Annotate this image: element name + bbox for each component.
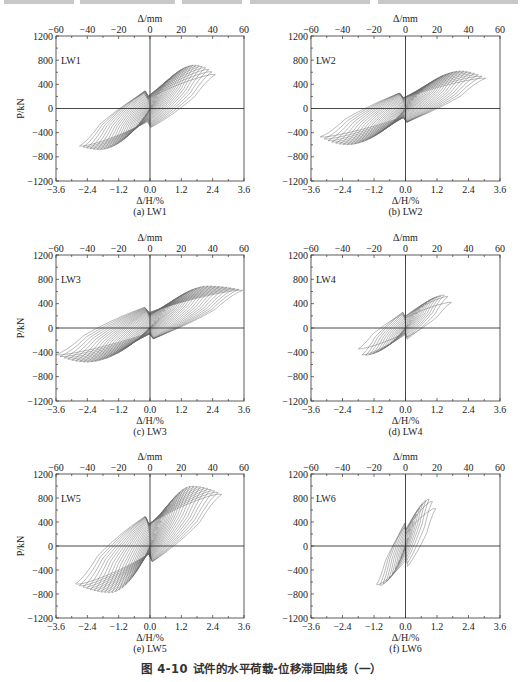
y-tick-label: 1200	[288, 469, 308, 480]
y-tick-label: −1200	[282, 176, 308, 187]
x2-tick-label: 20	[432, 24, 442, 35]
x-tick-label: 3.6	[238, 184, 251, 195]
x2-tick-label: 0	[148, 243, 153, 254]
x2-tick-label: −20	[111, 462, 127, 473]
specimen-label: LW3	[61, 274, 81, 285]
chart-lw1: −3.6−2.4−1.20.01.22.43.6−60−40−200204060…	[16, 6, 258, 223]
x-axis-title: Δ/H/%	[392, 632, 420, 643]
x2-tick-label: 40	[208, 462, 218, 473]
x2-tick-label: −40	[80, 24, 96, 35]
x2-tick-label: 20	[432, 462, 442, 473]
x-tick-label: 1.2	[175, 184, 188, 195]
x2-tick-label: 0	[403, 462, 408, 473]
x2-tick-label: 60	[495, 462, 505, 473]
y-tick-label: 0	[303, 323, 308, 334]
y-tick-label: −1200	[282, 396, 308, 407]
y-tick-label: −400	[32, 565, 53, 576]
y-tick-label: −800	[287, 371, 308, 382]
hysteresis-curves	[358, 295, 451, 355]
y-tick-label: −1200	[27, 613, 53, 624]
hysteresis-curves	[76, 486, 222, 593]
x2-tick-label: 20	[176, 243, 186, 254]
x2-tick-label: −20	[366, 243, 382, 254]
figure-caption: 图 4-10 试件的水平荷载-位移滞回曲线（一）	[0, 660, 523, 676]
x2-tick-label: 40	[464, 243, 474, 254]
x-tick-label: 3.6	[238, 404, 251, 415]
y-axis-title: P/kN	[16, 536, 26, 557]
y-tick-label: 1200	[288, 250, 308, 261]
x2-tick-label: 60	[239, 24, 249, 35]
panel-label: (b) LW2	[389, 206, 423, 218]
x-tick-label: −2.4	[78, 621, 96, 632]
hysteresis-curves	[320, 71, 485, 145]
x-tick-label: −1.2	[365, 184, 383, 195]
y-tick-label: −800	[287, 589, 308, 600]
hysteresis-curves	[377, 499, 436, 585]
x2-tick-label: −20	[366, 462, 382, 473]
y-tick-label: −1200	[27, 176, 53, 187]
x2-tick-label: 0	[403, 243, 408, 254]
specimen-label: LW1	[61, 55, 81, 66]
plot-frame	[311, 255, 500, 401]
x-tick-label: −2.4	[78, 404, 96, 415]
y-tick-label: 800	[38, 55, 53, 66]
chart-lw6: −3.6−2.4−1.20.01.22.43.6−60−40−200204060…	[271, 444, 514, 660]
y-tick-label: 800	[293, 274, 308, 285]
x-tick-label: 2.4	[462, 404, 475, 415]
y-tick-label: 1200	[33, 250, 53, 261]
x2-axis-title: Δ/mm	[393, 13, 418, 24]
x-axis-title: Δ/H/%	[136, 632, 164, 643]
x2-tick-label: 0	[148, 462, 153, 473]
x-tick-label: 0.0	[399, 184, 412, 195]
x2-axis-title: Δ/mm	[393, 232, 418, 243]
y-tick-label: 800	[293, 493, 308, 504]
x-tick-label: 1.2	[175, 404, 188, 415]
y-tick-label: −1200	[27, 396, 53, 407]
y-tick-label: 0	[48, 103, 53, 114]
chart-lw5: −3.6−2.4−1.20.01.22.43.6−60−40−200204060…	[16, 444, 258, 660]
x-tick-label: 1.2	[431, 404, 444, 415]
x-tick-label: 1.2	[175, 621, 188, 632]
x-tick-label: 2.4	[206, 621, 219, 632]
y-tick-label: 800	[293, 55, 308, 66]
x-tick-label: −2.4	[333, 404, 351, 415]
x2-tick-label: −40	[335, 24, 351, 35]
y-tick-label: −800	[32, 151, 53, 162]
y-tick-label: 800	[38, 274, 53, 285]
x-tick-label: 3.6	[238, 621, 251, 632]
y-tick-label: −400	[287, 347, 308, 358]
specimen-label: LW5	[61, 493, 81, 504]
x-axis-title: Δ/H/%	[136, 415, 164, 426]
x-tick-label: 3.6	[494, 404, 507, 415]
x2-tick-label: −20	[366, 24, 382, 35]
chart-lw3: −3.6−2.4−1.20.01.22.43.6−60−40−200204060…	[16, 225, 258, 443]
x2-tick-label: 60	[495, 24, 505, 35]
x-axis-title: Δ/H/%	[392, 415, 420, 426]
y-tick-label: 400	[38, 79, 53, 90]
y-tick-label: 0	[48, 323, 53, 334]
x-tick-label: −2.4	[333, 621, 351, 632]
panel-label: (a) LW1	[133, 206, 166, 218]
y-tick-label: 1200	[288, 31, 308, 42]
x2-tick-label: −40	[80, 243, 96, 254]
x2-tick-label: 0	[403, 24, 408, 35]
x2-axis-title: Δ/mm	[138, 13, 163, 24]
x2-axis-title: Δ/mm	[393, 451, 418, 462]
hysteresis-curves	[56, 286, 243, 362]
x-tick-label: 0.0	[144, 621, 157, 632]
x-tick-label: 1.2	[431, 621, 444, 632]
x2-tick-label: 20	[176, 462, 186, 473]
x-axis-title: Δ/H/%	[392, 195, 420, 206]
x2-tick-label: 20	[432, 243, 442, 254]
y-tick-label: 1200	[33, 31, 53, 42]
y-tick-label: 400	[38, 298, 53, 309]
specimen-label: LW6	[316, 493, 336, 504]
x-axis-title: Δ/H/%	[136, 195, 164, 206]
x2-tick-label: −40	[335, 243, 351, 254]
panel-label: (e) LW5	[133, 643, 166, 655]
plot-frame	[56, 474, 244, 618]
hysteresis-curves	[80, 65, 216, 150]
specimen-label: LW4	[316, 274, 336, 285]
y-tick-label: 1200	[33, 469, 53, 480]
x-tick-label: 3.6	[494, 621, 507, 632]
